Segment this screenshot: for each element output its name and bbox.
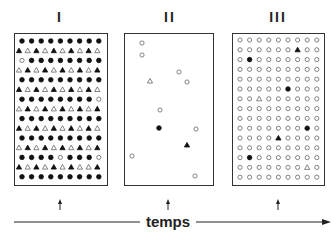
open-circle-icon bbox=[315, 87, 319, 91]
open-circle-icon bbox=[177, 70, 181, 74]
open-triangle-icon bbox=[77, 87, 82, 92]
open-circle-icon bbox=[286, 156, 290, 160]
open-circle-icon bbox=[276, 107, 280, 111]
open-circle-icon bbox=[296, 87, 300, 91]
open-circle-icon bbox=[267, 126, 271, 130]
open-circle-icon bbox=[257, 87, 261, 91]
open-triangle-icon bbox=[60, 87, 65, 92]
open-triangle-icon bbox=[86, 68, 91, 73]
open-circle-icon bbox=[276, 126, 280, 130]
open-circle-icon bbox=[315, 126, 319, 130]
open-circle-icon bbox=[238, 126, 242, 130]
up-arrow-icon bbox=[58, 199, 62, 204]
filled-triangle-icon bbox=[184, 142, 189, 147]
filled-triangle-icon bbox=[60, 68, 65, 73]
open-circle-icon bbox=[257, 126, 261, 130]
filled-circle-icon bbox=[29, 39, 34, 44]
open-triangle-icon bbox=[77, 126, 82, 131]
open-circle-icon bbox=[97, 97, 101, 101]
filled-circle-icon bbox=[97, 78, 102, 83]
open-circle-icon bbox=[267, 107, 271, 111]
open-triangle-icon bbox=[16, 145, 21, 150]
open-circle-icon bbox=[315, 136, 319, 140]
filled-triangle-icon bbox=[69, 48, 74, 53]
open-circle-icon bbox=[276, 87, 280, 91]
filled-circle-icon bbox=[29, 175, 34, 180]
open-circle-icon bbox=[286, 146, 290, 150]
open-circle-icon bbox=[286, 48, 290, 52]
filled-circle-icon bbox=[77, 175, 82, 180]
filled-circle-icon bbox=[77, 155, 82, 160]
open-circle-icon bbox=[238, 136, 242, 140]
open-circle-icon bbox=[58, 155, 62, 159]
open-circle-icon bbox=[267, 146, 271, 150]
filled-circle-icon bbox=[20, 175, 25, 180]
filled-circle-icon bbox=[87, 175, 92, 180]
open-circle-icon bbox=[257, 165, 261, 169]
filled-triangle-icon bbox=[34, 48, 39, 53]
filled-circle-icon bbox=[58, 97, 63, 102]
filled-circle-icon bbox=[58, 78, 63, 83]
filled-circle-icon bbox=[29, 136, 34, 141]
open-circle-icon bbox=[238, 67, 242, 71]
filled-circle-icon bbox=[97, 58, 102, 63]
up-arrow-icon bbox=[276, 199, 280, 204]
open-circle-icon bbox=[296, 77, 300, 81]
open-circle-icon bbox=[193, 174, 197, 178]
open-circle-icon bbox=[305, 156, 309, 160]
open-circle-icon bbox=[257, 136, 261, 140]
open-circle-icon bbox=[248, 87, 252, 91]
filled-circle-icon bbox=[39, 136, 44, 141]
filled-circle-icon bbox=[20, 136, 25, 141]
open-triangle-icon bbox=[51, 68, 56, 73]
open-circle-icon bbox=[296, 165, 300, 169]
open-circle-icon bbox=[305, 175, 309, 179]
open-triangle-icon bbox=[86, 165, 91, 170]
filled-circle-icon bbox=[20, 155, 25, 160]
open-circle-icon bbox=[296, 97, 300, 101]
filled-circle-icon bbox=[58, 39, 63, 44]
open-circle-icon bbox=[248, 165, 252, 169]
filled-circle-icon bbox=[39, 116, 44, 121]
open-triangle-icon bbox=[25, 87, 30, 92]
filled-circle-icon bbox=[77, 58, 82, 63]
open-circle-icon bbox=[276, 156, 280, 160]
filled-circle-icon bbox=[39, 97, 44, 102]
open-triangle-icon bbox=[69, 145, 74, 150]
filled-triangle-icon bbox=[95, 165, 100, 170]
open-circle-icon bbox=[267, 116, 271, 120]
open-circle-icon bbox=[238, 38, 242, 42]
filled-circle-icon bbox=[58, 116, 63, 121]
filled-triangle-icon bbox=[86, 126, 91, 131]
open-circle-icon bbox=[276, 165, 280, 169]
open-circle-icon bbox=[305, 136, 309, 140]
filled-circle-icon bbox=[29, 155, 34, 160]
filled-circle-icon bbox=[20, 39, 25, 44]
open-triangle-icon bbox=[34, 145, 39, 150]
open-circle-icon bbox=[315, 165, 319, 169]
up-arrow-icon bbox=[166, 199, 170, 204]
open-triangle-icon bbox=[147, 78, 152, 83]
filled-circle-icon bbox=[49, 116, 54, 121]
filled-triangle-icon bbox=[16, 87, 21, 92]
open-circle-icon bbox=[276, 146, 280, 150]
open-circle-icon bbox=[305, 38, 309, 42]
open-circle-icon bbox=[257, 67, 261, 71]
filled-triangle-icon bbox=[43, 68, 48, 73]
open-circle-icon bbox=[238, 146, 242, 150]
open-circle-icon bbox=[286, 136, 290, 140]
filled-triangle-icon bbox=[51, 165, 56, 170]
filled-circle-icon bbox=[68, 97, 73, 102]
open-circle-icon bbox=[305, 58, 309, 62]
open-circle-icon bbox=[286, 58, 290, 62]
filled-circle-icon bbox=[68, 39, 73, 44]
open-circle-icon bbox=[140, 41, 144, 45]
filled-circle-icon bbox=[97, 175, 102, 180]
open-circle-icon bbox=[315, 38, 319, 42]
open-triangle-icon bbox=[305, 165, 310, 170]
open-circle-icon bbox=[296, 146, 300, 150]
open-triangle-icon bbox=[77, 48, 82, 53]
open-circle-icon bbox=[238, 77, 242, 81]
filled-circle-icon bbox=[49, 155, 54, 160]
open-circle-icon bbox=[194, 127, 198, 131]
